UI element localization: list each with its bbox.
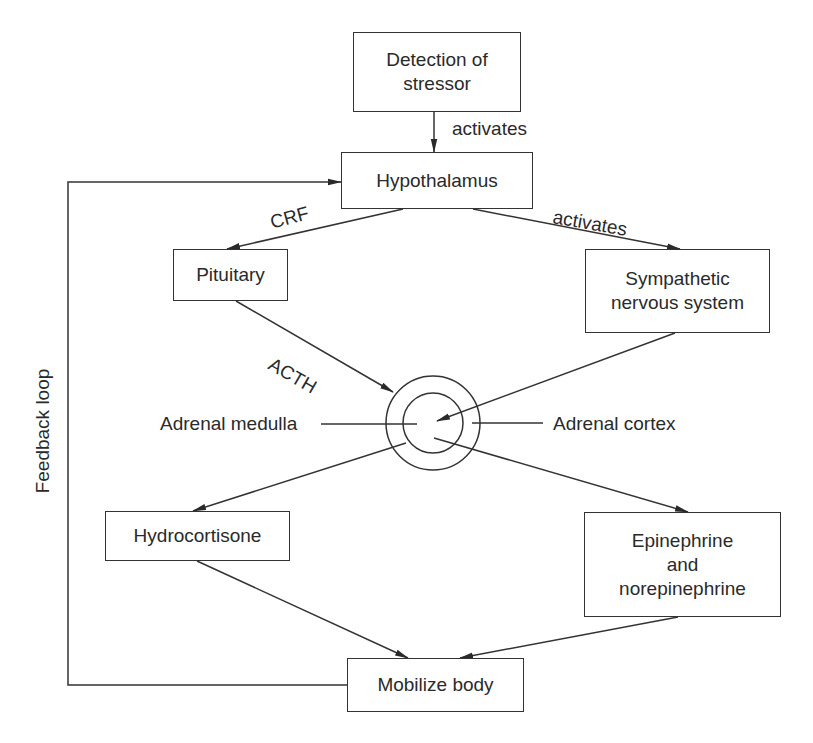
- feedback-loop-label: Feedback loop: [32, 359, 54, 504]
- detection-of-stressor-label: Detection of stressor: [386, 48, 487, 96]
- arrow-hydrocortisone-to-mobilize: [197, 561, 408, 658]
- sympathetic-nervous-system-node: Sympathetic nervous system: [585, 249, 770, 333]
- hydrocortisone-label: Hydrocortisone: [134, 524, 262, 548]
- pituitary-node: Pituitary: [173, 249, 288, 301]
- mobilize-body-node: Mobilize body: [347, 658, 524, 712]
- arrow-epinephrine-to-mobilize: [460, 617, 678, 658]
- sympathetic-nervous-system-label: Sympathetic nervous system: [611, 267, 744, 315]
- arrow-sympathetic-to-adrenal: [437, 333, 675, 421]
- activates-label-detection: activates: [452, 118, 527, 140]
- adrenal-cortex-label: Adrenal cortex: [553, 413, 676, 435]
- epinephrine-norepinephrine-label: Epinephrine and norepinephrine: [619, 529, 746, 601]
- hypothalamus-node: Hypothalamus: [341, 152, 533, 209]
- adrenal-medulla-inner-circle: [403, 393, 463, 453]
- mobilize-body-label: Mobilize body: [377, 673, 493, 697]
- epinephrine-norepinephrine-node: Epinephrine and norepinephrine: [584, 512, 781, 617]
- hypothalamus-label: Hypothalamus: [376, 169, 497, 193]
- pituitary-label: Pituitary: [196, 263, 265, 287]
- arrow-adrenal-to-hydrocortisone: [193, 443, 406, 511]
- hydrocortisone-node: Hydrocortisone: [105, 511, 290, 561]
- arrow-hypothalamus-to-pituitary: [227, 209, 403, 249]
- adrenal-cortex-outer-circle: [386, 376, 480, 470]
- detection-of-stressor-node: Detection of stressor: [353, 32, 521, 112]
- adrenal-medulla-label: Adrenal medulla: [160, 413, 297, 435]
